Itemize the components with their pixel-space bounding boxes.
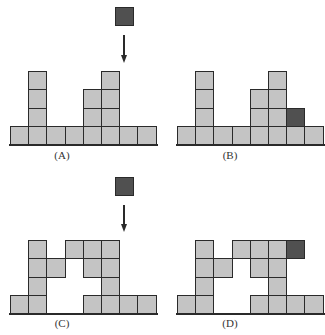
stacked-block <box>28 71 47 90</box>
ground-line <box>176 313 325 315</box>
stacked-block <box>119 126 138 145</box>
stacked-block <box>268 126 287 145</box>
stacked-block <box>304 295 323 314</box>
stacked-block <box>195 126 214 145</box>
stacked-block <box>101 108 120 127</box>
stacked-block <box>268 295 287 314</box>
stacked-block <box>101 240 120 259</box>
stacked-block <box>83 89 102 108</box>
stacked-block <box>250 126 269 145</box>
stacked-block <box>232 240 251 259</box>
panel-label: (B) <box>210 149 250 161</box>
stacked-block <box>28 295 47 314</box>
stacked-block <box>250 240 269 259</box>
stacked-block <box>195 89 214 108</box>
stacked-block <box>83 258 102 277</box>
stacked-block <box>250 295 269 314</box>
stacked-block <box>10 295 29 314</box>
ground-line <box>176 144 325 146</box>
stacked-block <box>65 126 84 145</box>
stacked-block <box>83 240 102 259</box>
stacked-block <box>46 258 65 277</box>
stacked-block <box>83 126 102 145</box>
stacked-block <box>213 126 232 145</box>
stacked-block <box>83 108 102 127</box>
stacked-block <box>268 89 287 108</box>
active-block <box>286 240 305 259</box>
stacked-block <box>250 258 269 277</box>
active-block <box>286 108 305 127</box>
stacked-block <box>286 126 305 145</box>
stacked-block <box>268 277 287 296</box>
stacked-block <box>28 258 47 277</box>
stacked-block <box>101 258 120 277</box>
stacked-block <box>10 126 29 145</box>
panel-label: (A) <box>42 149 82 161</box>
stacked-block <box>213 258 232 277</box>
stacked-block <box>195 295 214 314</box>
stacked-block <box>101 126 120 145</box>
falling-block <box>115 177 134 196</box>
stacked-block <box>28 277 47 296</box>
stacked-block <box>28 89 47 108</box>
stacked-block <box>268 258 287 277</box>
ground-line <box>9 144 158 146</box>
stacked-block <box>101 71 120 90</box>
ground-line <box>9 313 158 315</box>
stacked-block <box>195 240 214 259</box>
falling-block <box>115 7 134 26</box>
stacked-block <box>195 258 214 277</box>
stacked-block <box>177 126 196 145</box>
stacked-block <box>83 295 102 314</box>
stacked-block <box>137 295 156 314</box>
panel-label: (D) <box>210 317 250 329</box>
stacked-block <box>250 89 269 108</box>
down-arrow-icon <box>123 205 125 225</box>
arrow-head-icon <box>121 224 127 232</box>
stacked-block <box>177 295 196 314</box>
stacked-block <box>195 277 214 296</box>
stacked-block <box>65 240 84 259</box>
stacked-block <box>28 240 47 259</box>
stacked-block <box>137 126 156 145</box>
stacked-block <box>268 108 287 127</box>
panel-label: (C) <box>42 317 82 329</box>
stacked-block <box>46 126 65 145</box>
stacked-block <box>28 126 47 145</box>
stacked-block <box>101 89 120 108</box>
stacked-block <box>195 108 214 127</box>
stacked-block <box>119 295 138 314</box>
stacked-block <box>286 295 305 314</box>
stacked-block <box>250 108 269 127</box>
down-arrow-icon <box>123 35 125 56</box>
stacked-block <box>101 295 120 314</box>
stacked-block <box>101 277 120 296</box>
stacked-block <box>28 108 47 127</box>
stacked-block <box>304 126 323 145</box>
stacked-block <box>195 71 214 90</box>
stacked-block <box>268 71 287 90</box>
arrow-head-icon <box>121 55 127 63</box>
stacked-block <box>232 126 251 145</box>
stacked-block <box>268 240 287 259</box>
